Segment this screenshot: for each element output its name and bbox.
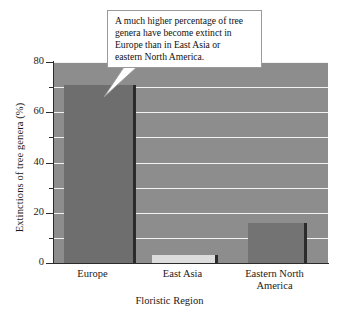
callout-line-4: eastern North America. (115, 51, 204, 62)
y-axis-title: Extinctions of tree genera (%) (14, 68, 25, 268)
category-label-line: Eastern North (222, 268, 327, 280)
plot-area (54, 62, 328, 263)
category-label: Eastern NorthAmerica (222, 268, 327, 291)
callout-line-1: A much higher percentage of tree (115, 15, 243, 26)
y-tick-major (46, 213, 54, 214)
y-tick-major (46, 62, 54, 63)
bar-eastern-north-america-face (248, 223, 304, 263)
callout-line-3: Europe than in East Asia or (115, 39, 220, 50)
bar-east-asia (152, 255, 218, 263)
bar-eastern-north-america-edge (304, 223, 307, 263)
y-tick-major (46, 112, 54, 113)
category-label: East Asia (130, 268, 235, 280)
y-tick-minor (49, 87, 54, 88)
bar-east-asia-edge (215, 255, 218, 263)
x-axis-title: Floristic Region (0, 295, 339, 306)
bar-europe-edge (133, 85, 136, 263)
callout-line-2: genera have become extinct in (115, 27, 232, 38)
category-label-line: East Asia (130, 268, 235, 280)
bar-europe-face (64, 85, 133, 263)
bar-eastern-north-america (248, 223, 307, 263)
callout-annotation: A much higher percentage of tree genera … (107, 10, 262, 68)
y-tick-minor (49, 137, 54, 138)
callout-pointer-icon (104, 66, 140, 98)
y-tick-label: 80 (14, 56, 44, 66)
y-tick-major (46, 163, 54, 164)
chart-figure: 020406080 Extinctions of tree genera (%)… (0, 0, 339, 316)
bar-europe (64, 85, 136, 263)
y-tick-minor (49, 238, 54, 239)
y-tick-minor (49, 188, 54, 189)
bar-east-asia-face (152, 255, 215, 263)
x-axis-line (53, 263, 329, 264)
category-label-line: America (222, 280, 327, 292)
y-tick-major (46, 263, 54, 264)
